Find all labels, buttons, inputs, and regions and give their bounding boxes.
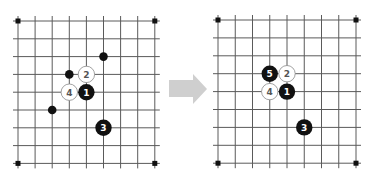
black-stone-3: 3 xyxy=(296,119,312,135)
stone-move-number: 4 xyxy=(267,87,273,97)
stone-move-number: 5 xyxy=(267,69,273,79)
corner-point-marker xyxy=(354,161,359,166)
board-after: 52413 xyxy=(0,0,170,176)
board-after-grid: 52413 xyxy=(0,0,379,176)
stone-move-number: 2 xyxy=(284,69,290,79)
stone-move-number: 3 xyxy=(301,123,307,133)
corner-point-marker xyxy=(354,18,359,23)
corner-point-marker xyxy=(216,161,221,166)
black-stone-1: 1 xyxy=(279,83,295,99)
white-stone-4: 4 xyxy=(262,83,278,99)
corner-point-marker xyxy=(216,18,221,23)
black-stone-5: 5 xyxy=(262,66,278,82)
stone-move-number: 1 xyxy=(284,87,290,97)
white-stone-2: 2 xyxy=(279,66,295,82)
